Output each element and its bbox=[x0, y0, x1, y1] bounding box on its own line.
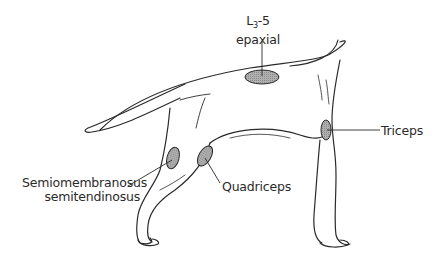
label-epaxial-line1: L3-5 bbox=[231, 14, 285, 33]
muscle-detail-line bbox=[160, 175, 185, 190]
site-semimembranosus bbox=[164, 146, 181, 170]
diagram-stage: L3-5 epaxial Semiomembranosus semitendin… bbox=[0, 0, 438, 257]
muscle-detail-line bbox=[326, 80, 329, 104]
dog-illustration bbox=[0, 0, 438, 257]
rear-paw-outline bbox=[138, 239, 159, 246]
dog-back-outline bbox=[100, 41, 345, 130]
label-semimembranosus: Semiomembranosus semitendinosus bbox=[22, 176, 140, 204]
label-epaxial-line2: epaxial bbox=[231, 33, 285, 47]
muscle-detail-line bbox=[230, 134, 290, 138]
site-quadriceps bbox=[194, 143, 215, 168]
leader-quadriceps bbox=[205, 158, 220, 183]
label-epaxial: L3-5 epaxial bbox=[231, 14, 285, 47]
front-paw-outline bbox=[320, 240, 349, 247]
muscle-detail-line bbox=[318, 75, 322, 100]
dog-belly-outline bbox=[210, 129, 325, 143]
front-leg-back-outline bbox=[314, 140, 322, 243]
front-leg-front-outline bbox=[332, 60, 350, 245]
label-quadriceps: Quadriceps bbox=[222, 180, 291, 194]
muscle-detail-line bbox=[196, 98, 205, 128]
muscle-detail-line bbox=[180, 94, 210, 100]
label-semimembranosus-line2: semitendinosus bbox=[22, 190, 140, 204]
label-triceps: Triceps bbox=[381, 124, 423, 138]
label-semimembranosus-line1: Semiomembranosus bbox=[22, 176, 140, 190]
